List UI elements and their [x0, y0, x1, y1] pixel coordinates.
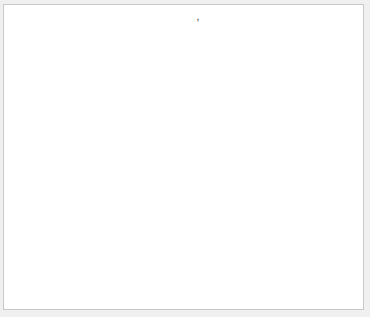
- figure-canvas: ,: [0, 0, 370, 317]
- figure-title: ,: [197, 11, 200, 22]
